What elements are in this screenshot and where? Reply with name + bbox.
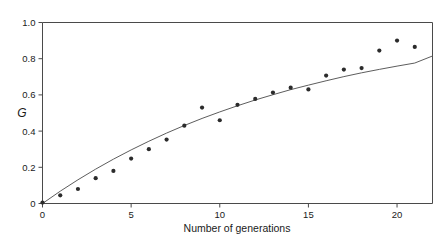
data-point [218,118,222,122]
scatter-chart: 00.20.40.60.81.0 05101520 Number of gene… [0,0,445,243]
data-point [395,39,399,43]
data-point [182,124,186,128]
chart-figure: 00.20.40.60.81.0 05101520 Number of gene… [0,0,445,243]
data-point [129,157,133,161]
x-tick-label: 10 [214,209,225,220]
data-point [271,90,275,94]
chart-background [0,0,445,243]
data-point [306,87,310,91]
x-tick-label: 0 [40,209,45,220]
data-point [413,45,417,49]
data-point [147,147,151,151]
y-tick-label: 0.2 [22,162,35,173]
x-tick-label: 20 [392,209,403,220]
y-tick-label: 0 [30,198,35,209]
data-point [76,187,80,191]
data-point [377,48,381,52]
data-point [58,193,62,197]
y-tick-label: 0.8 [22,53,35,64]
data-point [359,66,363,70]
x-tick-label: 15 [303,209,314,220]
y-tick-label: 1.0 [22,17,35,28]
data-point [164,138,168,142]
data-point [342,67,346,71]
x-tick-label: 5 [128,209,133,220]
data-point [40,200,44,204]
y-tick-label: 0.4 [22,126,35,137]
data-point [111,169,115,173]
data-point [324,73,328,77]
data-point [253,97,257,101]
data-point [200,105,204,109]
y-axis-title: G [17,106,26,120]
x-axis-title: Number of generations [184,222,291,234]
data-point [235,103,239,107]
data-point [94,176,98,180]
data-point [289,86,293,90]
y-tick-label: 0.6 [22,89,35,100]
